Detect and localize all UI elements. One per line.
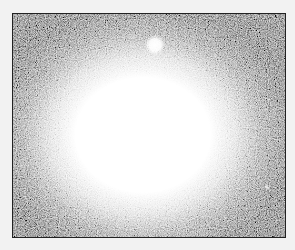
galaxy-image (13, 14, 285, 237)
faint-spot (265, 185, 269, 189)
galaxy-svg (13, 14, 285, 237)
bright-knot (145, 35, 165, 55)
